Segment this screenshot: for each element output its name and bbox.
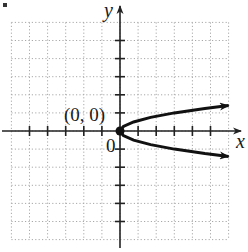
bullet-mark [3, 3, 7, 7]
vertex-point [116, 127, 125, 136]
origin-label: 0 [106, 135, 116, 156]
y-axis-label: y [102, 0, 113, 22]
parabola-graph: x y 0 (0, 0) [0, 0, 248, 252]
x-axis-label: x [235, 130, 245, 152]
vertex-label: (0, 0) [64, 104, 105, 126]
